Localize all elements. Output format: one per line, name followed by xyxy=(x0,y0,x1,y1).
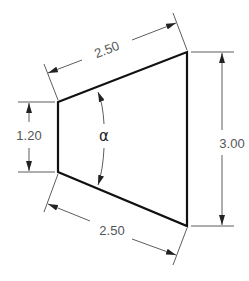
bottom-slant-label: 2.50 xyxy=(99,223,124,238)
angle-alpha-dimension: α xyxy=(98,92,109,185)
top-right-extension-line xyxy=(173,13,187,50)
top-left-extension-line xyxy=(44,64,58,100)
bottom-slant-dimension: 2.50 xyxy=(44,174,187,265)
left-height-dimension: 1.20 xyxy=(16,102,55,172)
top-dimension-line-right xyxy=(132,23,176,40)
angle-alpha-label: α xyxy=(99,127,109,145)
bottom-dimension-line-left xyxy=(48,204,90,221)
right-height-dimension: 3.00 xyxy=(191,52,245,226)
top-slant-dimension: 2.50 xyxy=(44,13,187,100)
top-dimension-line-left xyxy=(48,60,82,73)
right-height-label: 3.00 xyxy=(219,136,244,151)
bottom-dimension-line-right xyxy=(132,239,176,255)
left-height-label: 1.20 xyxy=(16,128,41,143)
top-slant-label: 2.50 xyxy=(92,38,121,61)
trapezoid-drawing: 2.50 2.50 1.20 3.00 α xyxy=(0,0,249,281)
angle-arc-top xyxy=(98,92,104,124)
trapezoid-outline xyxy=(58,52,187,226)
bottom-right-extension-line xyxy=(173,228,187,265)
angle-arc-bottom xyxy=(98,148,104,185)
bottom-left-extension-line xyxy=(44,174,58,212)
